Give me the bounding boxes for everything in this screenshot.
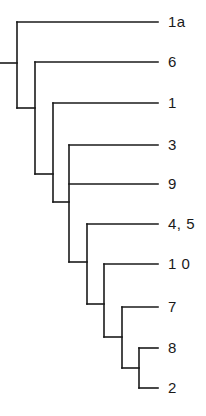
leaf-label: 3 bbox=[168, 137, 177, 152]
leaf-label: 8 bbox=[168, 340, 177, 355]
leaf-label: 1a bbox=[168, 14, 186, 29]
leaf-label: 6 bbox=[168, 54, 177, 69]
leaf-label: 1 bbox=[168, 95, 177, 110]
leaf-label: 4, 5 bbox=[168, 216, 195, 231]
leaf-label: 1 0 bbox=[168, 256, 190, 271]
leaf-label: 9 bbox=[168, 176, 177, 191]
leaf-label: 2 bbox=[168, 380, 177, 395]
leaf-label: 7 bbox=[168, 299, 177, 314]
